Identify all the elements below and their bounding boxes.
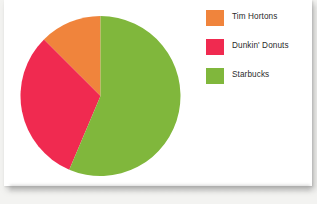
legend-item-tim-hortons[interactable]: Tim Hortons bbox=[206, 3, 314, 32]
legend-label-tim-hortons: Tim Hortons bbox=[232, 13, 277, 21]
legend-swatch-dunkin-donuts bbox=[206, 39, 224, 55]
pie-chart bbox=[20, 15, 182, 178]
legend-label-starbucks: Starbucks bbox=[232, 71, 269, 79]
chart-legend: Tim Hortons Dunkin' Donuts Starbucks bbox=[206, 3, 314, 90]
legend-item-starbucks[interactable]: Starbucks bbox=[206, 61, 314, 90]
pie-slice-group bbox=[20, 16, 180, 176]
card-drop-shadow bbox=[10, 185, 310, 193]
legend-item-dunkin-donuts[interactable]: Dunkin' Donuts bbox=[206, 32, 314, 61]
legend-swatch-starbucks bbox=[206, 68, 224, 84]
chart-figure: Tim Hortons Dunkin' Donuts Starbucks bbox=[0, 0, 317, 204]
legend-label-dunkin-donuts: Dunkin' Donuts bbox=[232, 42, 289, 50]
legend-swatch-tim-hortons bbox=[206, 10, 224, 26]
pie-chart-svg bbox=[20, 15, 182, 178]
